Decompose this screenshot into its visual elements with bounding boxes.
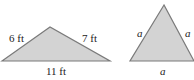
triangles-diagram: 6 ft 7 ft 11 ft a a a [0,0,194,80]
eq-side-label-right: a [185,27,191,39]
eq-side-label-base: a [160,65,166,77]
side-label-right: 7 ft [82,32,97,44]
side-label-base: 11 ft [46,65,66,77]
eq-side-label-left: a [137,27,143,39]
side-label-left: 6 ft [9,32,24,44]
